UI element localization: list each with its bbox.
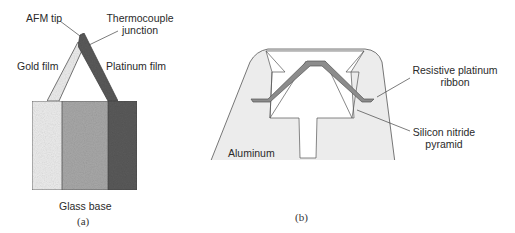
label-thermocouple-line2: junction xyxy=(104,24,176,36)
caption-b: (b) xyxy=(295,211,308,223)
caption-a: (a) xyxy=(77,215,89,227)
label-silicon-nitride-pyramid: Silicon nitride pyramid xyxy=(408,126,480,150)
label-pyramid-line1: Silicon nitride xyxy=(408,126,480,138)
label-afm-tip: AFM tip xyxy=(26,12,62,24)
label-thermocouple-line1: Thermocouple xyxy=(104,12,176,24)
panel-a-thermocouple-probe xyxy=(32,21,137,190)
label-resistive-platinum-ribbon: Resistive platinum ribbon xyxy=(410,64,500,88)
label-ribbon-line1: Resistive platinum xyxy=(410,64,500,76)
label-platinum-film: Platinum film xyxy=(106,60,166,72)
label-aluminum: Aluminum xyxy=(228,147,275,159)
gold-film-base xyxy=(32,101,62,190)
label-glass-base: Glass base xyxy=(59,200,112,212)
label-pyramid-line2: pyramid xyxy=(408,138,480,150)
label-thermocouple-junction: Thermocouple junction xyxy=(104,12,176,36)
label-ribbon-line2: ribbon xyxy=(410,76,500,88)
glass-base xyxy=(62,101,108,190)
platinum-film-base xyxy=(108,101,137,190)
label-gold-film: Gold film xyxy=(17,60,58,72)
afm-tip-leader xyxy=(60,21,80,36)
diagram-canvas xyxy=(0,0,515,233)
